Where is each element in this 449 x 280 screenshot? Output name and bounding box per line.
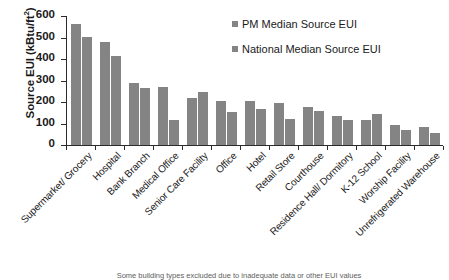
x-axis-category-label: Office [213, 150, 238, 175]
x-axis-category-label: Hotel [244, 150, 268, 174]
y-axis-tick [61, 16, 66, 17]
x-axis-category-label: Medical Office [129, 150, 180, 201]
bar [343, 120, 354, 145]
bar [419, 127, 430, 145]
bar [430, 133, 441, 145]
bar-group [100, 16, 122, 145]
y-axis-tick-label: 600 [0, 8, 55, 20]
x-axis-tick [327, 146, 328, 150]
y-axis-tick-label: 300 [0, 73, 55, 85]
bar-group [71, 16, 93, 145]
y-axis-tick-label: 0 [0, 137, 55, 149]
legend-label-pm-median: PM Median Source EUI [242, 18, 357, 30]
y-axis-tick [61, 81, 66, 82]
bar [332, 116, 343, 145]
chart-legend: PM Median Source EUI National Median Sou… [232, 18, 442, 68]
legend-item-national-median: National Median Source EUI [232, 43, 442, 55]
bar [274, 103, 285, 145]
y-axis-tick [61, 124, 66, 125]
x-axis-tick [153, 146, 154, 150]
x-axis-tick [182, 146, 183, 150]
bar [285, 119, 296, 145]
x-axis-category-label: Supermarket/ Grocery [18, 150, 93, 225]
bar [169, 120, 180, 145]
bar [187, 98, 198, 145]
bar-group [129, 16, 151, 145]
x-axis-tick [298, 146, 299, 150]
y-axis-tick [61, 102, 66, 103]
bar-group [158, 16, 180, 145]
x-axis-category-label: Hospital [90, 150, 122, 182]
bar [227, 112, 238, 145]
bar [314, 111, 325, 145]
x-axis-tick [240, 146, 241, 150]
x-axis-tick [356, 146, 357, 150]
x-axis-category-label: Bank Branch [104, 150, 151, 197]
x-axis-tick [124, 146, 125, 150]
bar [401, 130, 412, 145]
x-axis-category-label: Senior Care Facility [142, 150, 209, 217]
legend-swatch-icon [232, 21, 238, 27]
bar [256, 109, 267, 145]
bar [198, 92, 209, 145]
bar [129, 83, 140, 145]
bar [140, 88, 151, 145]
y-axis-line [66, 16, 67, 146]
x-axis-category-label: Courthouse [282, 150, 325, 193]
x-axis-category-label: Retail Store [253, 150, 296, 193]
bar [372, 114, 383, 145]
y-axis-tick-label: 200 [0, 94, 55, 106]
bar [71, 24, 82, 145]
x-axis-tick [269, 146, 270, 150]
x-axis-category-label: Worship Facility [356, 150, 412, 206]
x-axis-category-label: Residence Hall/ Dormitory [267, 150, 354, 237]
y-axis-tick-label: 400 [0, 51, 55, 63]
y-axis-tick-label: 500 [0, 30, 55, 42]
legend-label-national-median: National Median Source EUI [242, 43, 381, 55]
bar [82, 37, 93, 145]
y-axis-tick [61, 59, 66, 60]
bar [390, 125, 401, 145]
y-axis-tick [61, 38, 66, 39]
bar [158, 87, 169, 145]
x-axis-tick [211, 146, 212, 150]
x-axis-line [66, 145, 443, 146]
x-axis-tick [66, 146, 67, 150]
x-axis-tick [414, 146, 415, 150]
bar [303, 107, 314, 145]
x-axis-tick [443, 146, 444, 150]
bar [111, 56, 122, 145]
y-axis-tick-label: 100 [0, 116, 55, 128]
bar [245, 101, 256, 145]
bar [100, 42, 111, 145]
legend-swatch-icon [232, 46, 238, 52]
x-axis-category-label: K-12 School [338, 150, 383, 195]
chart-caption: Some building types excluded due to inad… [74, 271, 404, 280]
bar [216, 101, 227, 145]
bar [361, 120, 372, 145]
bar-group [187, 16, 209, 145]
legend-item-pm-median: PM Median Source EUI [232, 18, 442, 30]
x-axis-tick [95, 146, 96, 150]
x-axis-category-label: Unrefrigerated Warehouse [353, 150, 441, 238]
x-axis-tick [385, 146, 386, 150]
